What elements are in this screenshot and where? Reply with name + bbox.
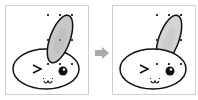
- bunny-after-drawing: [113, 6, 197, 96]
- bunny-before-drawing: [6, 6, 90, 96]
- eye-icon: [166, 67, 175, 76]
- before-panel: [5, 5, 89, 95]
- arrow-right-icon: [95, 44, 109, 63]
- eye-icon: [59, 67, 68, 76]
- after-panel: [112, 5, 196, 95]
